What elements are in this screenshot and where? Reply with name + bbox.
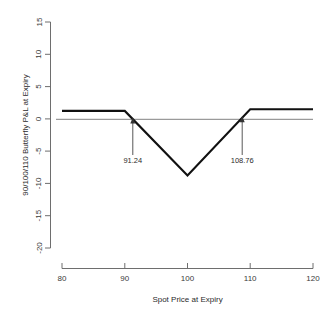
y-tick-label-5: 5	[35, 84, 44, 89]
y-tick-label-neg20: -20	[35, 242, 44, 254]
y-tick-label-neg15: -15	[35, 209, 44, 221]
x-axis-title: Spot Price at Expiry	[152, 295, 222, 304]
y-tick-label-15: 15	[35, 17, 44, 26]
chart-container: 15 10 5 0 -5 -10 -15 -20 90/100/110 Butt…	[0, 0, 331, 318]
x-tick-label-120: 120	[306, 274, 320, 283]
x-tick-label-110: 110	[244, 274, 257, 283]
annotation-right-label: 108.76	[231, 156, 254, 165]
y-tick-label-0: 0	[35, 116, 44, 121]
y-tick-label-neg5: -5	[35, 147, 44, 155]
plot-background	[0, 0, 331, 318]
annotation-left-label: 91.24	[123, 156, 142, 165]
butterfly-pnl-plot: 15 10 5 0 -5 -10 -15 -20 90/100/110 Butt…	[0, 0, 331, 318]
x-tick-label-80: 80	[58, 274, 67, 283]
y-tick-label-neg10: -10	[35, 177, 44, 189]
y-tick-label-10: 10	[35, 49, 44, 58]
x-tick-label-90: 90	[120, 274, 129, 283]
x-tick-label-100: 100	[181, 274, 195, 283]
y-axis-title: 90/100/110 Butterfly P&L at Expiry	[21, 74, 30, 195]
